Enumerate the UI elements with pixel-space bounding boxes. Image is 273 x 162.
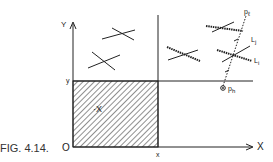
origin-label: O	[62, 143, 70, 153]
point-pl-label: pℓ	[244, 8, 250, 18]
y-mark-label: y	[66, 77, 70, 84]
line-Li-label: Li	[254, 57, 259, 67]
x-axis-label: X	[257, 142, 264, 152]
figure-caption: FIG. 4.14.	[0, 143, 49, 154]
point-ph-label: ph	[228, 85, 235, 95]
x-mark-label: x	[156, 151, 160, 158]
region-label: ·X	[93, 104, 102, 114]
dotted-ray	[223, 16, 246, 86]
hatched-region	[73, 81, 158, 147]
line-Lj-label: Lj	[251, 36, 256, 46]
diagram-canvas	[0, 0, 273, 162]
y-axis-label: Y	[61, 20, 66, 30]
